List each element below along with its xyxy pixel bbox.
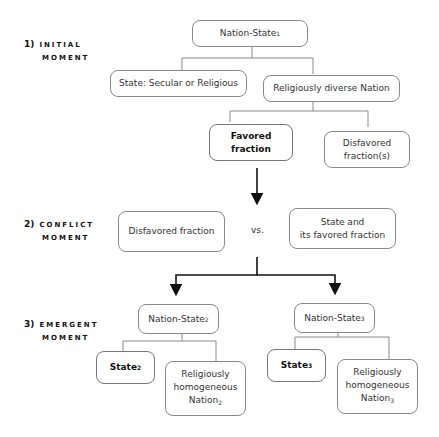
node-state-3: State3 <box>267 349 326 382</box>
node-state-and-favored-fraction: State andits favored fraction <box>289 208 396 249</box>
stage-subtitle: MOMENT <box>24 52 89 65</box>
node-homogeneous-nation-2: ReligiouslyhomogeneousNation2 <box>165 361 246 416</box>
node-disfavored-fractions: Disfavoredfraction(s) <box>324 131 410 168</box>
stage-number: 3) <box>24 319 34 329</box>
node-disfavored-fraction-conflict: Disfavored fraction <box>118 211 225 252</box>
node-nation-state-1: Nation-State1 <box>192 20 308 47</box>
node-homogeneous-nation-3: ReligiouslyhomogeneousNation3 <box>337 359 418 414</box>
stage-title: EMERGENT <box>39 321 98 329</box>
stage-number: 1) <box>24 39 34 49</box>
versus-label: vs. <box>251 225 264 235</box>
stage-title: CONFLICT <box>39 221 94 229</box>
stage-number: 2) <box>24 219 34 229</box>
stage-subtitle: MOMENT <box>24 232 94 245</box>
stage-subtitle: MOMENT <box>24 332 98 345</box>
node-nation-state-2: Nation-State2 <box>138 304 219 334</box>
stage-label-emergent: 3)EMERGENT MOMENT <box>24 318 98 345</box>
stage-label-conflict: 2)CONFLICT MOMENT <box>24 218 94 245</box>
stage-title: INITIAL <box>39 41 81 49</box>
node-nation-state-3: Nation-State3 <box>294 303 375 333</box>
node-favored-fraction: Favoredfraction <box>209 124 293 161</box>
node-state-secular-religious: State: Secular or Religious <box>110 70 247 97</box>
node-religiously-diverse-nation: Religiously diverse Nation <box>263 75 400 102</box>
node-state-2: State2 <box>96 351 155 384</box>
stage-label-initial: 1)INITIAL MOMENT <box>24 38 89 65</box>
